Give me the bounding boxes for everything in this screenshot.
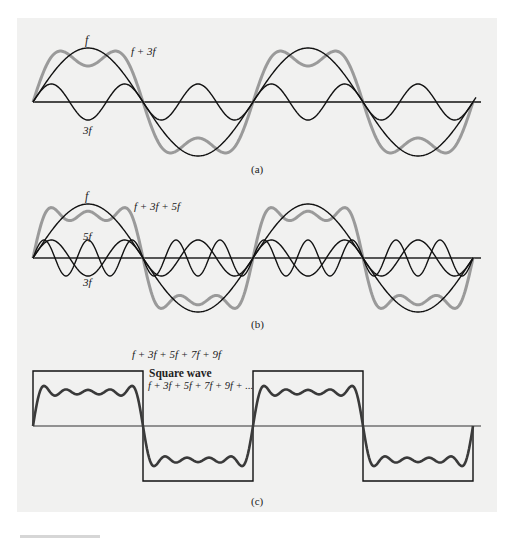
label-f: f <box>85 189 90 203</box>
label-square-title: Square wave <box>149 367 212 380</box>
caption-b: (b) <box>251 318 264 331</box>
panel-b: f f + 3f + 5f 5f 3f (b) <box>33 189 481 331</box>
label-3f: 3f <box>82 276 94 288</box>
label-sum: f + 3f + 5f + 7f + 9f <box>132 348 223 360</box>
caption-c: (c) <box>251 495 264 508</box>
label-3f: 3f <box>82 124 94 136</box>
panel-a: f f + 3f 3f (a) <box>33 33 481 176</box>
label-5f: 5f <box>83 230 94 242</box>
harmonic5-curve <box>33 240 473 276</box>
panel-c: f + 3f + 5f + 7f + 9f Square wave f + 3f… <box>33 348 481 508</box>
label-square-series: f + 3f + 5f + 7f + 9f + ... <box>148 380 253 391</box>
caption-a: (a) <box>251 163 264 176</box>
label-sum: f + 3f <box>131 45 157 57</box>
label-sum: f + 3f + 5f <box>134 200 182 212</box>
fourier-figure: f f + 3f 3f (a) f f + 3f + 5f 5f 3f (b) … <box>0 0 516 538</box>
label-f: f <box>85 33 90 47</box>
